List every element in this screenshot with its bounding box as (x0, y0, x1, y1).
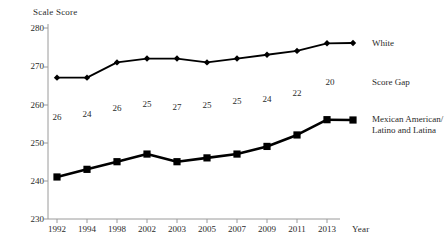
series-mexican-american-latino-line (53, 116, 330, 181)
data-point-marker (173, 158, 180, 165)
series-polyline (57, 43, 327, 77)
data-point-marker (204, 59, 210, 65)
data-point-marker (144, 55, 150, 61)
legend-label-white: White (372, 38, 394, 49)
data-point-marker (54, 74, 60, 80)
chart-container: Scale Score Year 280 270 260 250 240 230… (0, 0, 447, 242)
data-point-marker (294, 48, 300, 54)
data-point-marker (143, 150, 150, 157)
data-point-marker (114, 59, 120, 65)
legend-label-mexican-american-latino: Mexican American/ Latino and Latina (372, 114, 443, 136)
data-point-marker (83, 166, 90, 173)
data-point-marker (350, 40, 356, 46)
legend-label-line-2: Latino and Latina (372, 125, 443, 136)
data-point-marker (264, 52, 270, 58)
data-point-marker (174, 55, 180, 61)
data-point-marker (263, 143, 270, 150)
series-polyline (57, 120, 327, 177)
data-point-marker (84, 74, 90, 80)
legend-label-score-gap: Score Gap (372, 77, 410, 88)
data-point-marker (349, 116, 356, 123)
data-point-marker (53, 173, 60, 180)
legend-label-line-1: Mexican American/ (372, 114, 443, 125)
series-white-line (54, 40, 330, 81)
legend-markers (327, 40, 357, 124)
data-point-marker (233, 150, 240, 157)
data-point-marker (293, 131, 300, 138)
data-point-marker (203, 154, 210, 161)
data-point-marker (234, 55, 240, 61)
data-point-marker (113, 158, 120, 165)
